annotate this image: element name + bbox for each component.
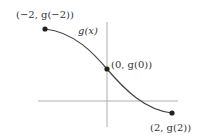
point-left (42, 26, 47, 31)
label-left-point: (−2, g(−2)) (16, 9, 74, 20)
label-middle-point: (0, g(0)) (111, 59, 152, 70)
point-middle (104, 66, 109, 71)
point-right (169, 110, 174, 115)
label-right-point: (2, g(2)) (150, 122, 191, 133)
label-function: g(x) (78, 25, 98, 36)
function-graph: (−2, g(−2)) g(x) (0, g(0)) (2, g(2)) (0, 0, 200, 137)
